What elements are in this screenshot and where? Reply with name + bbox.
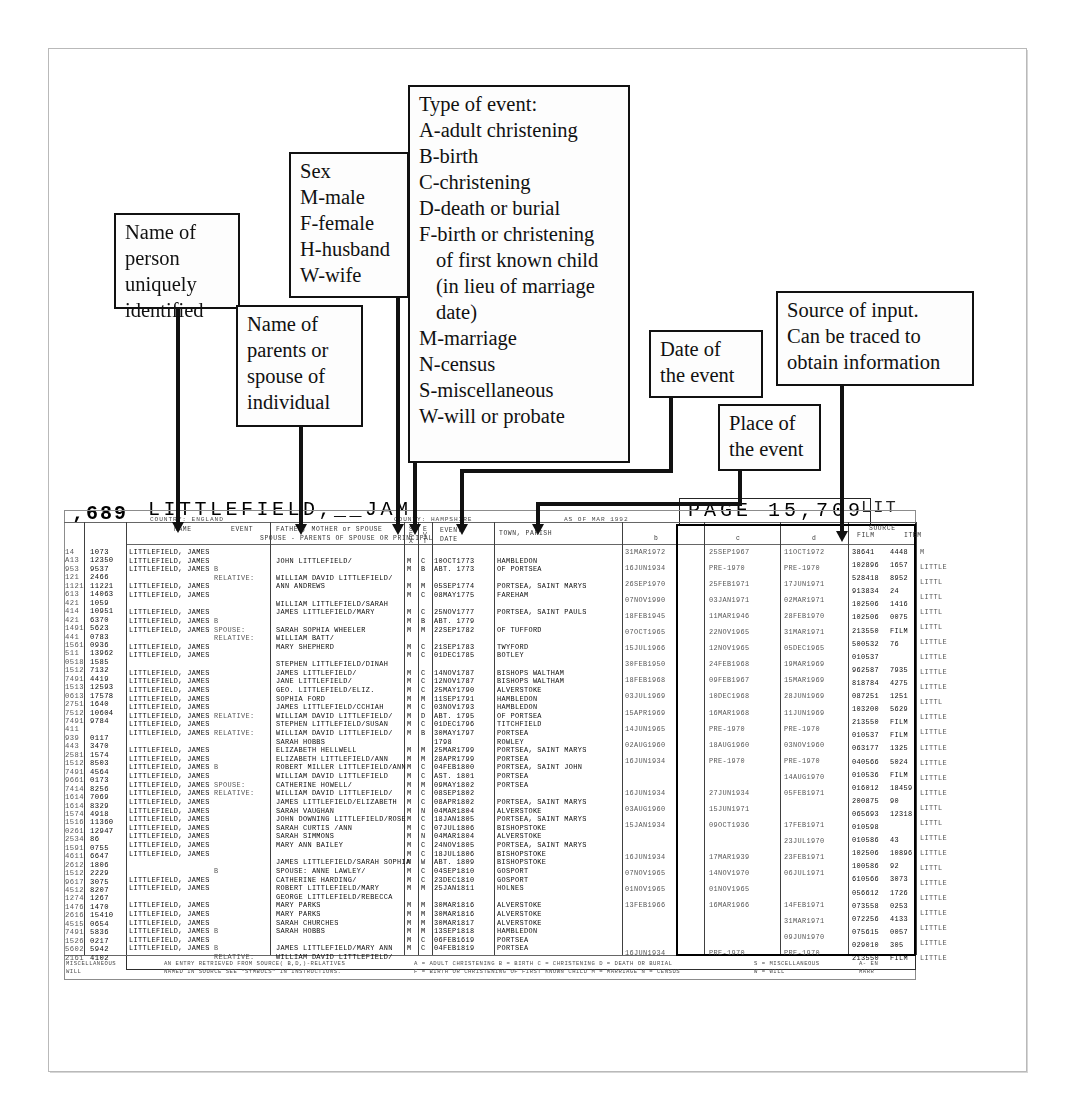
footnote: AN ENTRY RETRIEVED FROM SOURCE( B,D,)-RE… [164,960,345,967]
col-source-film: 040566 [852,758,879,766]
row-relation: RELATIVE: [214,712,254,720]
col-source-item: 1657 [890,561,908,569]
row-name: LITTLEFIELD, JAMES [129,565,210,573]
left-number-a: 411 [65,725,79,733]
row-event-date: 18JAN1805 [434,815,474,823]
callout-line: Name of [125,219,231,245]
row-event-code: C [421,867,426,875]
column-header: FILM [857,532,875,539]
callout-line: Sex [300,158,400,184]
row-place: BOTLEY [497,651,524,659]
row-event-code: C [421,815,426,823]
row-event-code: C [421,608,426,616]
col-c-date: 03JAN1971 [709,596,749,604]
col-source-film: 065693 [852,810,879,818]
col-d-date: 05DEC1965 [784,644,824,652]
row-event-code: B [421,565,426,573]
row-sex-code: M [407,703,412,711]
right-margin-entry: LITTLE [920,849,947,857]
left-number-a: 7491 [65,928,84,936]
right-margin-entry: LITTLE [920,954,947,962]
col-source-item: 305 [890,941,903,949]
footnote: MISCELLANEOUS [66,960,116,967]
row-place: OF TUFFORD [497,626,542,634]
row-relation: RELATIVE: [214,574,254,582]
leader-arrow-parents [295,524,307,535]
row-sex-code: M [407,591,412,599]
col-source-item: FILM [890,718,908,726]
col-source-film: 010586 [852,836,879,844]
row-place: BISHOPSTOKE [497,858,546,866]
right-margin-entry: LITTLE [920,789,947,797]
col-div-name [270,522,271,955]
leader-arrow-source [836,531,848,542]
row-place: HAMBLEDON [497,695,537,703]
left-number-b: 10951 [90,607,114,615]
row-place: HOLNES [497,884,524,892]
left-number-a: 7414 [65,785,84,793]
left-number-a: 1516 [65,818,84,826]
left-number-b: 11221 [90,582,114,590]
col-b-date: 16JUN1934 [625,564,665,572]
row-parent-spouse: WILLIAM BATT/ [276,634,334,642]
col-b-date: 07NOV1965 [625,869,665,877]
row-sex-code: M [407,763,412,771]
col-source-item: 1726 [890,889,908,897]
row-parent-spouse: WILLIAM DAVID LITTLEFIELD/ [276,574,393,582]
col-c-date: 25FEB1971 [709,580,749,588]
row-place: BISHOPS WALTHAM [497,669,564,677]
column-header: T [423,538,427,545]
col-b-date: 30FEB1950 [625,660,665,668]
left-number-a: 1121 [65,582,84,590]
row-event-code: M [421,781,426,789]
col-b-date: 07OCT1965 [625,628,665,636]
callout-line: identified [125,297,231,323]
row-relation: RELATIVE: [214,729,254,737]
right-margin-entry: LITTLE [920,653,947,661]
row-event-code: W [421,858,426,866]
callout-type-of-event: Type of event: A-adult christening B-bir… [408,85,630,463]
col-source-item: 1416 [890,600,908,608]
col-source-film: 010537 [852,653,879,661]
col-div-sex [404,522,405,955]
row-place: GOSPORT [497,867,528,875]
callout-name-of-parents: Name of parents or spouse of individual [236,305,363,427]
row-name: LITTLEFIELD, JAMES [129,703,210,711]
leader-line-sex-vertical [396,297,400,528]
right-margin-entry: LITTL [920,578,942,586]
column-header: EVENT [231,526,253,533]
col-d-date: 05FEB1971 [784,789,824,797]
row-place: ALVERSTOKE [497,901,542,909]
row-event-code: D [421,712,426,720]
row-name: LITTLEFIELD, JAMES [129,824,210,832]
row-parent-spouse: ELIZABETH HELLWELL [276,746,357,754]
row-event-code: C [421,720,426,728]
row-event-code: C [421,850,426,858]
row-place: TITCHFIELD [497,720,542,728]
row-sex-code: M [407,884,412,892]
row-sex-code: M [407,755,412,763]
row-parent-spouse: SARAH CHURCHES [276,919,339,927]
row-event-date: 09MAY1802 [434,781,474,789]
row-sex-code: M [407,789,412,797]
left-number-a: 443 [65,742,79,750]
row-place: PORTSEA [497,729,528,737]
leader-arrow-place [532,524,544,535]
row-place: PORTSEA, SAINT MARYS [497,582,587,590]
row-place: PORTSEA, SAINT MARYS [497,815,587,823]
col-source-film: 818784 [852,679,879,687]
left-number-a: 7491 [65,675,84,683]
left-number-b: 1059 [90,599,109,607]
left-number-b: 0783 [90,633,109,641]
col-c-date: PRE-1970 [709,725,745,733]
col-c-date: 17MAR1939 [709,853,749,861]
row-place: PORTSEA [497,755,528,763]
row-sex-code: M [407,626,412,634]
right-margin-entry: M [920,548,925,556]
column-header: c [736,535,740,542]
row-event-date: 30MAY1797 [434,729,474,737]
col-div-right-margin [916,522,917,955]
col-source-item: 0253 [890,902,908,910]
row-event-code: C [421,591,426,599]
col-c-date: 16MAR1968 [709,709,749,717]
